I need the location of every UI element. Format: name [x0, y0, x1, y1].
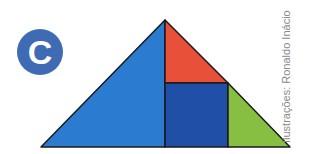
red-triangle: [165, 20, 228, 83]
illustration-credit: Ilustrações: Ronaldo Inácio: [280, 0, 292, 143]
large-blue-triangle: [41, 20, 165, 147]
dark-blue-square: [165, 83, 228, 147]
tangram-triangle-diagram: [0, 0, 309, 154]
